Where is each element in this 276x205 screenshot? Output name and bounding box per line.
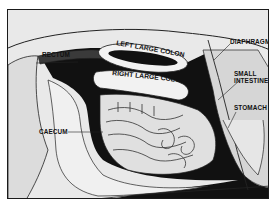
small-intestine-label-line2: INTESTINE: [234, 77, 268, 84]
small-intestine-label: SMALL INTESTINE: [234, 71, 268, 84]
stomach-label: STOMACH: [234, 105, 267, 112]
diaphragm-label: DIAPHRAGM: [230, 39, 269, 46]
rectum-label: RECTUM: [42, 52, 70, 59]
caecum-label: CAECUM: [39, 129, 68, 136]
diagram-frame: LEFT LARGE COLON RIGHT LARGE COLON RECTU…: [7, 9, 269, 199]
